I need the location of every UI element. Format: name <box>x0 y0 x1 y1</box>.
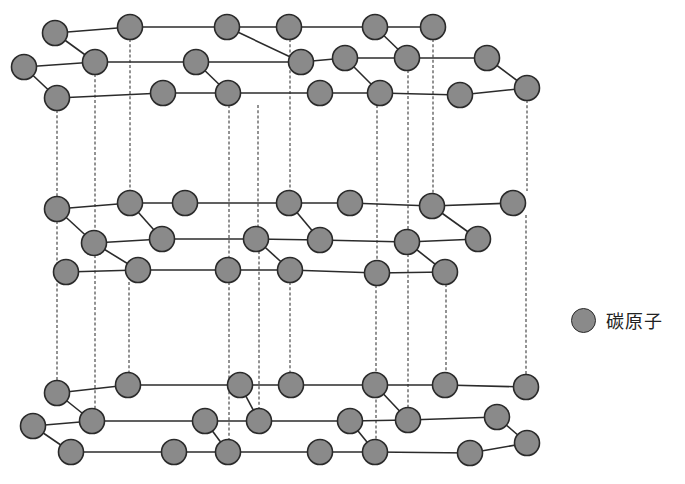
carbon-atom <box>308 81 333 106</box>
graphite-structure-diagram <box>0 0 685 484</box>
legend-label: 碳原子 <box>606 307 663 333</box>
carbon-atom <box>338 191 363 216</box>
carbon-atom <box>59 440 84 465</box>
carbon-atom <box>277 15 302 40</box>
carbon-atom <box>368 81 393 106</box>
carbon-atom <box>116 373 141 398</box>
carbon-atom <box>448 83 473 108</box>
carbon-atom <box>126 258 151 283</box>
carbon-atom <box>247 409 272 434</box>
bottom-layer-bond <box>375 452 470 453</box>
carbon-atom <box>228 373 253 398</box>
carbon-atom <box>501 191 526 216</box>
carbon-atom <box>333 46 358 71</box>
carbon-atom <box>458 441 483 466</box>
carbon-atom <box>308 228 333 253</box>
bottom-layer-bond <box>408 417 497 420</box>
carbon-atom <box>420 194 445 219</box>
carbon-atom <box>421 15 446 40</box>
carbon-atom <box>514 375 539 400</box>
carbon-atom <box>150 227 175 252</box>
carbon-atom <box>118 15 143 40</box>
carbon-atom <box>216 258 241 283</box>
carbon-atom <box>80 409 105 434</box>
carbon-atom <box>216 440 241 465</box>
carbon-atom <box>289 50 314 75</box>
top-layer-bond <box>57 93 163 98</box>
carbon-atom <box>515 431 540 456</box>
carbon-atom <box>162 440 187 465</box>
carbon-atom <box>215 15 240 40</box>
carbon-atom <box>83 50 108 75</box>
carbon-atom-icon <box>571 308 596 333</box>
carbon-atom <box>395 46 420 71</box>
carbon-atom <box>45 381 70 406</box>
carbon-atom <box>184 50 209 75</box>
carbon-atom <box>82 231 107 256</box>
carbon-atom <box>466 227 491 252</box>
carbon-atom <box>395 230 420 255</box>
carbon-atom <box>433 373 458 398</box>
carbon-atom <box>151 81 176 106</box>
carbon-atom <box>338 409 363 434</box>
carbon-atom <box>365 261 390 286</box>
carbon-atom <box>277 191 302 216</box>
carbon-atom <box>118 191 143 216</box>
carbon-atom <box>43 21 68 46</box>
legend: 碳原子 <box>571 305 663 335</box>
carbon-atom <box>396 408 421 433</box>
carbon-atom <box>45 86 70 111</box>
carbon-atom <box>515 76 540 101</box>
carbon-atom <box>21 414 46 439</box>
carbon-atom <box>216 81 241 106</box>
carbon-atom <box>279 373 304 398</box>
carbon-atom <box>485 405 510 430</box>
carbon-atom <box>193 409 218 434</box>
carbon-atom <box>278 258 303 283</box>
carbon-atom <box>433 260 458 285</box>
carbon-atom <box>308 440 333 465</box>
carbon-atom <box>45 197 70 222</box>
carbon-atom <box>475 46 500 71</box>
carbon-atom <box>363 15 388 40</box>
carbon-atom <box>173 191 198 216</box>
carbon-atom <box>12 55 37 80</box>
carbon-atom <box>363 440 388 465</box>
carbon-atom <box>54 260 79 285</box>
carbon-atom <box>363 373 388 398</box>
carbon-atom <box>244 227 269 252</box>
